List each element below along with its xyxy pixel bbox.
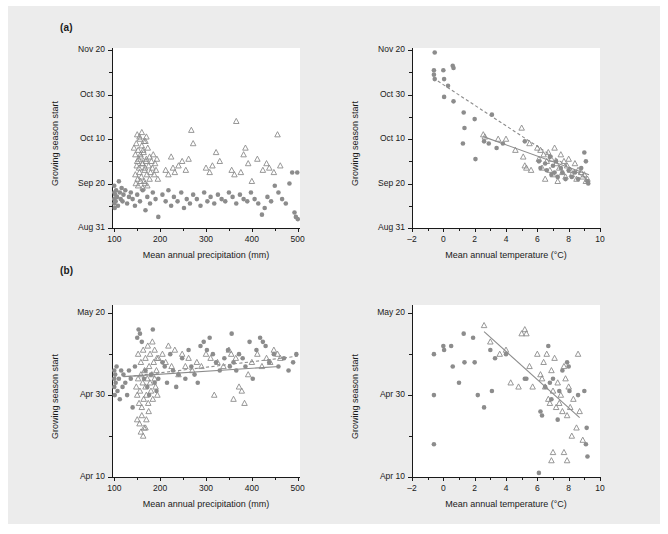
data-point-triangle [580, 437, 586, 442]
data-point-circle [540, 413, 545, 418]
data-point-circle [576, 393, 581, 398]
data-point-circle [472, 360, 477, 365]
data-point-circle [548, 381, 553, 386]
data-point-circle [462, 360, 467, 365]
data-point-circle [476, 393, 481, 398]
regression-line-modelled [484, 332, 580, 418]
data-point-triangle [550, 449, 556, 454]
data-point-circle [449, 344, 454, 349]
data-point-circle [524, 376, 529, 381]
data-point-triangle [564, 458, 570, 463]
data-point-circle [584, 426, 589, 431]
data-point-triangle [541, 359, 547, 364]
data-layer [8, 6, 660, 524]
data-point-triangle [530, 384, 536, 389]
data-point-circle [566, 364, 571, 369]
data-point-triangle [574, 425, 580, 430]
data-point-triangle [535, 351, 541, 356]
data-point-circle [585, 454, 590, 459]
data-point-circle [490, 389, 495, 394]
data-point-circle [565, 360, 570, 365]
data-point-circle [482, 405, 487, 410]
data-point-circle [555, 417, 560, 422]
data-point-triangle [549, 458, 555, 463]
data-point-triangle [481, 322, 487, 327]
data-point-circle [441, 344, 446, 349]
data-point-circle [461, 331, 466, 336]
data-point-triangle [552, 355, 558, 360]
data-point-triangle [497, 351, 503, 356]
data-point-triangle [566, 384, 572, 389]
data-point-circle [442, 348, 447, 353]
data-point-triangle [555, 380, 561, 385]
data-point-circle [432, 442, 437, 447]
data-point-circle [582, 389, 587, 394]
data-point-circle [551, 376, 556, 381]
data-point-triangle [544, 351, 550, 356]
data-point-triangle [549, 368, 555, 373]
data-point-triangle [527, 363, 533, 368]
data-point-triangle [561, 449, 567, 454]
data-point-triangle [569, 433, 575, 438]
data-point-circle [538, 409, 543, 414]
data-point-circle [450, 364, 455, 369]
data-point-triangle [575, 351, 581, 356]
data-point-circle [546, 344, 551, 349]
data-point-triangle [516, 384, 522, 389]
chart-b-right-temperature: Apr 10Apr 30May 20–20246810Mean annual t… [8, 6, 660, 524]
data-point-triangle [577, 408, 583, 413]
data-point-circle [537, 471, 542, 476]
data-point-circle [432, 393, 437, 398]
data-point-triangle [508, 380, 514, 385]
data-point-circle [432, 352, 437, 357]
data-point-circle [457, 381, 462, 386]
data-point-circle [471, 335, 476, 340]
data-point-circle [488, 348, 493, 353]
data-point-triangle [571, 396, 577, 401]
figure-canvas: (a) Aug 31Sep 20Oct 10Oct 30Nov 20100200… [8, 6, 660, 524]
data-point-triangle [563, 376, 569, 381]
data-point-triangle [560, 408, 566, 413]
